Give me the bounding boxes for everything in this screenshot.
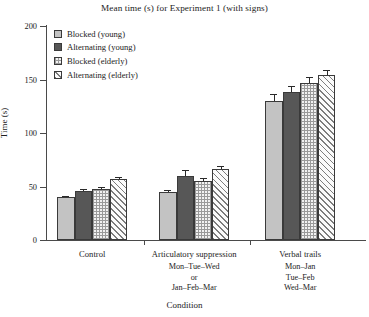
error-bar-cap [62,196,69,197]
x-group-label: Verbal trails [279,249,321,259]
y-tick-label: 100 [6,129,37,138]
x-axis-title: Condition [0,300,369,310]
bar [110,179,128,240]
x-group-sublabel-line: Mon–Jan [284,262,317,273]
y-tick-mark [40,26,46,27]
error-bar-cap [98,187,105,188]
legend-label: Alternating (young) [67,42,136,52]
legend-item: Alternating (elderly) [54,68,138,82]
error-bar-cap [80,189,87,190]
bar [177,176,195,240]
legend-item: Blocked (young) [54,27,138,41]
x-group-sublabel-line: or [169,273,220,284]
legend-swatch-icon [54,57,62,65]
chart-figure: Mean time (s) for Experiment 1 (with sig… [0,0,369,317]
x-group-sublabel-line: Mon–Tue–Wed [169,262,220,273]
bar [283,92,301,240]
y-tick-mark [40,187,46,188]
bar [57,197,75,240]
legend-item: Alternating (young) [54,41,138,55]
x-axis-line [46,240,366,241]
legend-swatch-icon [54,30,62,38]
y-tick-mark [40,240,46,241]
y-tick-label: 200 [6,22,37,31]
y-tick-mark [40,133,46,134]
x-group-sublabel: Mon–JanTue–FebWed–Mar [284,262,317,294]
error-bar-cap [182,170,189,171]
legend-label: Alternating (elderly) [67,70,138,80]
legend-label: Blocked (elderly) [67,56,127,66]
error-bar-cap [288,86,295,87]
chart-title: Mean time (s) for Experiment 1 (with sig… [0,3,369,13]
legend-swatch-icon [54,71,62,79]
chart-legend: Blocked (young)Alternating (young)Blocke… [54,27,138,81]
legend-item: Blocked (elderly) [54,54,138,68]
error-bar-cap [115,177,122,178]
error-bar-cap [270,94,277,95]
bar [159,192,177,240]
legend-swatch-icon [54,43,62,51]
error-bar-cap [200,178,207,179]
x-group-sublabel-line: Tue–Feb [284,273,317,284]
y-tick-label: 150 [6,75,37,84]
error-bar-cap [164,190,171,191]
bar [318,75,336,240]
bar [265,101,283,240]
bar [212,169,230,240]
legend-label: Blocked (young) [67,29,125,39]
x-separator-tick [144,240,145,245]
bar [194,181,212,240]
x-group-sublabel-line: Jan–Feb–Mar [169,283,220,294]
x-group-sublabel: Mon–Tue–WedorJan–Feb–Mar [169,262,220,294]
y-axis-line [46,25,47,241]
x-separator-tick [250,240,251,245]
error-bar-cap [323,70,330,71]
y-tick-label: 0 [6,236,37,245]
x-group-label: Articulatory suppression [152,249,237,259]
y-tick-mark [40,80,46,81]
error-bar-cap [306,77,313,78]
bar [92,189,110,240]
x-group-sublabel-line: Wed–Mar [284,283,317,294]
x-group-label: Control [79,249,105,259]
bar [300,83,318,240]
y-axis-title: Time (s) [0,108,9,138]
error-bar-cap [217,166,224,167]
bar [75,191,93,240]
y-tick-label: 50 [6,182,37,191]
